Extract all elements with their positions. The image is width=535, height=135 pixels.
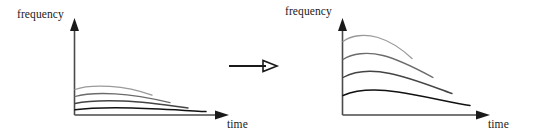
series-line-after-3	[343, 71, 452, 93]
frequency-time-transformation-figure: frequency time frequency time	[0, 0, 535, 135]
y-axis-label-before: frequency	[17, 8, 64, 21]
y-axis-arrowhead-icon	[338, 18, 347, 31]
series-line-before-3	[75, 101, 188, 108]
x-axis-label-before: time	[227, 118, 248, 130]
series-line-after-2	[343, 53, 433, 77]
chart-after: frequency time	[285, 5, 509, 130]
chart-before: frequency time	[17, 8, 248, 130]
y-axis-arrowhead-icon	[70, 18, 79, 31]
transformation-arrow	[229, 61, 277, 72]
y-axis-label-after: frequency	[285, 5, 332, 18]
x-axis-label-after: time	[488, 118, 509, 130]
